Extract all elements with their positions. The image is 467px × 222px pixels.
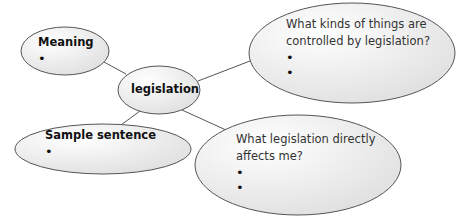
bullet-point: • — [38, 51, 94, 66]
node-center: legislation — [131, 81, 199, 98]
connector-controlled — [198, 61, 250, 81]
node-sample-title: Sample sentence — [45, 128, 156, 142]
node-controlled-line1: What kinds of things are — [286, 16, 430, 33]
center-label: legislation — [131, 82, 199, 96]
node-affects-line2: affects me? — [236, 148, 375, 165]
node-affects: What legislation directly affects me? • … — [236, 131, 375, 195]
bullet-point: • — [286, 65, 430, 80]
node-meaning: Meaning • — [38, 34, 94, 66]
node-sample: Sample sentence • — [45, 127, 156, 159]
node-affects-line1: What legislation directly — [236, 131, 375, 148]
bullet-point: • — [236, 180, 375, 195]
bullet-point: • — [45, 144, 156, 159]
bullet-point: • — [286, 50, 430, 65]
node-meaning-title: Meaning — [38, 35, 94, 49]
node-controlled: What kinds of things are controlled by l… — [286, 16, 430, 80]
connector-sample — [121, 111, 140, 125]
bullet-point: • — [236, 165, 375, 180]
connector-affects — [182, 110, 226, 130]
connector-meaning — [104, 62, 126, 74]
node-controlled-line2: controlled by legislation? — [286, 33, 430, 50]
